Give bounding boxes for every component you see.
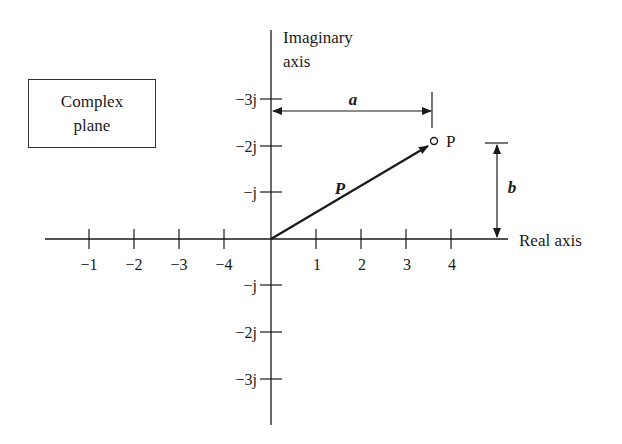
imag-axis-label-line2: axis [283,52,310,71]
dimension-b-label: b [508,178,517,197]
tick-label: −1 [80,256,97,273]
dimension-a-label: a [349,90,358,109]
real-tick-labels: −1 −2 −3 −4 1 2 3 4 [80,256,456,273]
tick-label: 2 [358,256,366,273]
complex-plane-diagram: −1 −2 −3 −4 1 2 3 4 −3j −2j −j −j −2j −3… [0,0,622,444]
point-p-label: P [446,132,455,151]
tick-label: −3 [170,256,187,273]
vector-p-arrow [271,146,428,239]
imag-tick-labels: −3j −2j −j −j −2j −3j [236,91,257,389]
tick-label: −3j [236,91,257,109]
tick-label: −4 [215,256,232,273]
imag-axis-label-line1: Imaginary [283,28,353,47]
vector-p-label: P [334,179,346,198]
tick-label: −2j [236,324,257,342]
tick-label: 3 [403,256,411,273]
tick-label: −3j [236,371,257,389]
tick-label: −2j [236,138,257,156]
real-axis-label: Real axis [519,231,582,250]
tick-label: −j [244,277,257,295]
tick-label: 4 [448,256,456,273]
tick-label: −2 [125,256,142,273]
tick-label: −j [244,184,257,202]
tick-label: 1 [313,256,321,273]
point-p-marker [431,138,438,145]
